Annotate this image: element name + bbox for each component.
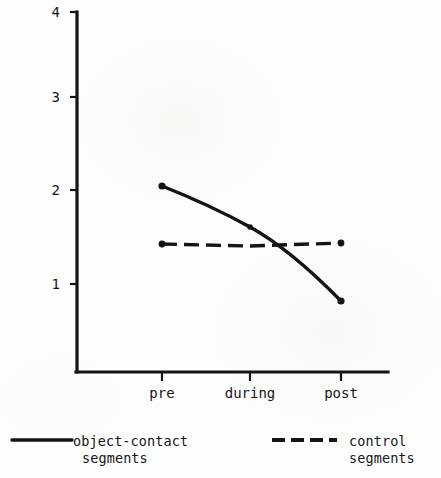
chart-canvas: [0, 0, 441, 478]
data-point-object-contact-post: [337, 297, 344, 304]
data-point-control-post: [338, 240, 345, 247]
legend-label-control-line1: control: [349, 433, 407, 450]
legend-label-control-line2: segments: [349, 450, 415, 467]
y-tick-label-3: 3: [44, 90, 60, 104]
y-tick-label-2: 2: [44, 183, 60, 197]
x-tick-label-during: during: [210, 386, 290, 400]
data-point-object-contact-during: [247, 224, 253, 230]
legend-label-object-contact-line1: object-contact: [73, 433, 188, 450]
series-line-control-segments: [162, 243, 341, 246]
x-tick-label-post: post: [301, 386, 381, 400]
legend-label-object-contact-line2: segments: [82, 450, 148, 467]
data-point-object-contact-pre: [158, 182, 165, 189]
data-point-control-pre: [159, 241, 166, 248]
y-tick-label-4: 4: [44, 5, 60, 19]
chart-figure: 4 3 2 1 pre during post object-contact s…: [0, 0, 441, 478]
y-tick-label-1: 1: [44, 277, 60, 291]
x-tick-label-pre: pre: [122, 386, 202, 400]
